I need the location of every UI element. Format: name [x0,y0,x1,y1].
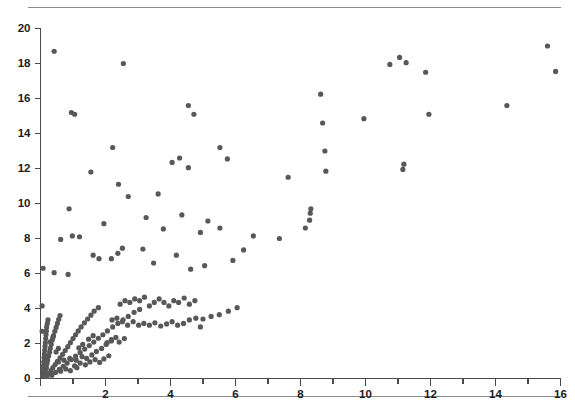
x-tick-label: 8 [297,388,304,400]
data-point [86,337,91,342]
data-point [120,246,125,251]
data-point [79,324,84,329]
data-point [187,317,192,322]
data-point [110,145,115,150]
data-point [100,332,105,337]
y-tick-label: 8 [24,232,31,244]
data-point [217,225,222,230]
data-point [105,340,110,345]
data-point [175,323,180,328]
y-tick-label: 18 [18,57,31,69]
data-point [106,353,111,358]
data-point [161,300,166,305]
data-point [170,319,175,324]
data-point [158,323,163,328]
data-point [156,191,161,196]
y-tick-label: 2 [24,337,30,349]
data-point [322,148,327,153]
data-point [113,335,118,340]
data-point [109,317,114,322]
data-point [67,356,72,361]
data-point [88,169,93,174]
data-point [147,303,152,308]
data-point [109,337,114,342]
data-point [161,226,166,231]
data-point [318,92,323,97]
data-point [122,336,127,341]
data-point [193,316,198,321]
data-point [77,234,82,239]
data-point [177,155,182,160]
data-point [50,335,55,340]
data-point [131,319,136,324]
data-point [170,160,175,165]
data-point [80,342,85,347]
data-point [176,300,181,305]
data-point [68,368,73,373]
data-point [88,313,93,318]
x-tick-label: 2 [102,388,108,400]
x-tick-label: 16 [554,388,567,400]
data-point [504,103,509,108]
data-point [186,165,191,170]
x-tick-label: 4 [167,388,174,400]
data-point [91,333,96,338]
data-point [251,233,256,238]
data-point [217,312,222,317]
x-tick-label: 12 [424,388,437,400]
x-tick-label: 14 [489,388,502,400]
data-point [96,336,101,341]
data-point [87,359,92,364]
data-point [110,324,115,329]
data-point [217,145,222,150]
data-point [52,270,57,275]
data-point [144,215,149,220]
data-point [187,302,192,307]
data-point [115,251,120,256]
data-point [137,307,142,312]
x-axis: 246810121416 [41,379,567,400]
data-point [40,303,45,308]
data-point [122,298,127,303]
data-point [164,321,169,326]
data-point [152,320,157,325]
data-point [48,339,53,344]
data-point [202,263,207,268]
data-point [426,112,431,117]
data-point [63,366,68,371]
data-point [101,221,106,226]
data-point [82,347,87,352]
data-point [142,295,147,300]
data-point [209,314,214,319]
data-point [140,246,145,251]
x-tick-label: 10 [359,388,372,400]
data-point [97,360,102,365]
data-point [127,300,132,305]
data-point [320,120,325,125]
scatter-plot-svg: 02468101214161820 246810121416 [0,0,575,405]
data-point [83,362,88,367]
data-point [226,309,231,314]
data-point [152,300,157,305]
data-point [307,218,312,223]
y-tick-label: 6 [24,267,30,279]
data-point [132,296,137,301]
data-point [179,212,184,217]
data-point [423,70,428,75]
data-point [66,272,71,277]
data-point [387,62,392,67]
data-point [157,296,162,301]
data-point [99,346,104,351]
data-point [235,305,240,310]
data-point [323,169,328,174]
data-point [400,167,405,172]
data-point [286,175,291,180]
data-point [198,324,203,329]
data-point [171,298,176,303]
y-tick-label: 20 [18,22,31,34]
data-point [93,357,98,362]
data-point [126,314,131,319]
data-point [116,182,121,187]
y-tick-label: 0 [24,372,30,384]
data-point [115,321,120,326]
